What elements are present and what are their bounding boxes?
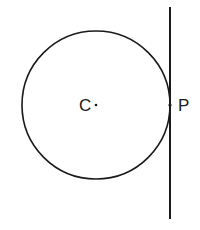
tangent-diagram: C P — [0, 0, 200, 230]
tangent-point — [168, 103, 171, 106]
center-label: C — [79, 96, 91, 115]
tangent-point-label: P — [178, 96, 189, 115]
center-point — [95, 104, 98, 107]
